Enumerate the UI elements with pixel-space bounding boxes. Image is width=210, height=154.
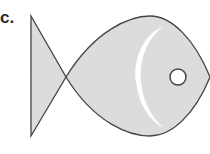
fish-eye xyxy=(170,69,186,85)
fish-tail xyxy=(31,16,66,136)
fish-illustration xyxy=(0,0,210,154)
